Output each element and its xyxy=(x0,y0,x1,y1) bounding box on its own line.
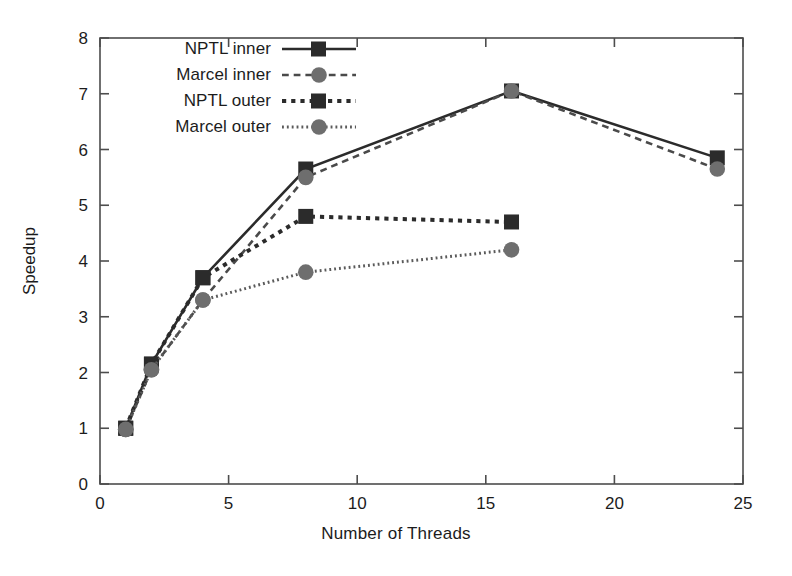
legend-swatch-square xyxy=(280,91,358,111)
data-point-marker xyxy=(298,170,314,186)
y-tick-label: 6 xyxy=(58,141,88,161)
legend-swatch-circle xyxy=(280,117,358,137)
x-tick-label: 20 xyxy=(594,494,634,514)
legend-swatch-circle xyxy=(280,65,358,85)
legend-label: Marcel outer xyxy=(175,117,280,137)
data-point-marker xyxy=(144,362,160,378)
legend-label: Marcel inner xyxy=(176,65,280,85)
data-point-marker xyxy=(504,242,520,258)
x-tick-label: 0 xyxy=(80,494,120,514)
legend-item-marcel-inner: Marcel inner xyxy=(118,62,358,88)
x-tick-label: 25 xyxy=(723,494,763,514)
data-point-marker xyxy=(504,83,520,99)
legend-item-nptl-outer: NPTL outer xyxy=(118,88,358,114)
data-point-marker xyxy=(709,161,725,177)
data-point-marker xyxy=(298,264,314,280)
data-point-marker xyxy=(118,422,134,438)
y-tick-label: 4 xyxy=(58,252,88,272)
legend-label: NPTL outer xyxy=(184,91,280,111)
data-point-marker xyxy=(504,214,519,229)
x-tick-label: 5 xyxy=(209,494,249,514)
y-tick-label: 2 xyxy=(58,364,88,384)
data-point-marker xyxy=(298,209,313,224)
x-tick-label: 10 xyxy=(337,494,377,514)
series-marcel-outer xyxy=(118,242,519,437)
data-point-marker xyxy=(195,292,211,308)
y-tick-label: 0 xyxy=(58,475,88,495)
x-tick-label: 15 xyxy=(466,494,506,514)
y-tick-label: 7 xyxy=(58,85,88,105)
data-point-marker xyxy=(195,270,210,285)
legend-item-nptl-inner: NPTL inner xyxy=(118,36,358,62)
legend-swatch-square xyxy=(280,39,358,59)
speedup-line-chart: Speedup Number of Threads 01234567805101… xyxy=(0,0,792,576)
y-tick-label: 5 xyxy=(58,196,88,216)
y-axis-label: Speedup xyxy=(20,227,40,295)
y-tick-label: 3 xyxy=(58,308,88,328)
legend-item-marcel-outer: Marcel outer xyxy=(118,114,358,140)
x-axis-label: Number of Threads xyxy=(0,524,792,544)
series-nptl-outer xyxy=(118,209,519,436)
y-tick-label: 1 xyxy=(58,419,88,439)
chart-legend: NPTL innerMarcel innerNPTL outerMarcel o… xyxy=(118,36,358,140)
y-axis-label-wrapper: Speedup xyxy=(0,0,60,522)
y-tick-label: 8 xyxy=(58,29,88,49)
legend-label: NPTL inner xyxy=(185,39,280,59)
